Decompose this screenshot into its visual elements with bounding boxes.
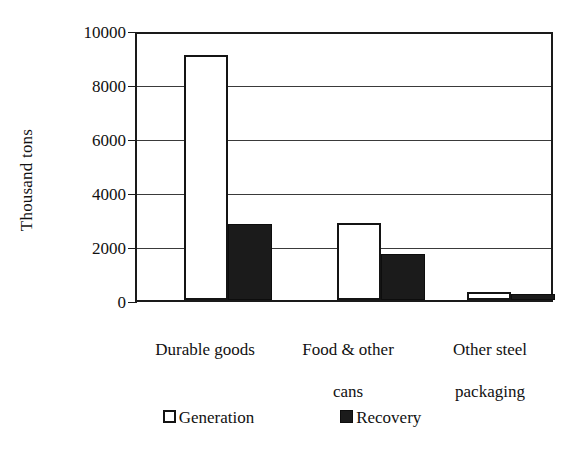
y-tick-label-4000: 4000 [48, 186, 126, 203]
y-tick-label-10000: 10000 [48, 24, 126, 41]
legend-item-recovery[interactable]: Recovery [340, 408, 421, 425]
category-label-line2: cans [278, 381, 418, 402]
legend-label-generation: Generation [179, 409, 255, 426]
bar-recovery-group-3 [511, 294, 555, 300]
legend-item-generation[interactable]: Generation [163, 408, 255, 425]
y-tick-mark-0 [128, 302, 137, 303]
legend-label-recovery: Recovery [356, 409, 421, 426]
category-label-line1: Other steel [420, 339, 560, 360]
y-tick-label-2000: 2000 [48, 240, 126, 257]
chart-legend: Generation Recovery [0, 408, 584, 425]
bar-chart: Thousand tons 10000 8000 6000 4000 2000 … [0, 0, 584, 462]
plot-area [135, 32, 553, 302]
category-label-durable-goods: Durable goods [130, 318, 280, 402]
bar-recovery-group-2 [381, 254, 425, 300]
category-label-line2: packaging [420, 381, 560, 402]
y-tick-label-8000: 8000 [48, 78, 126, 95]
hollow-square-icon [163, 410, 176, 423]
bar-recovery-group-1 [228, 224, 272, 300]
filled-square-icon [340, 410, 353, 423]
bar-generation-group-2 [337, 223, 381, 300]
y-tick-label-0: 0 [48, 294, 126, 311]
y-tick-label-6000: 6000 [48, 132, 126, 149]
category-label-line1: Durable goods [130, 339, 280, 360]
bar-generation-group-1 [184, 55, 228, 300]
category-label-line1: Food & other [278, 339, 418, 360]
bar-generation-group-3 [467, 292, 511, 300]
y-axis-title: Thousand tons [17, 90, 37, 270]
